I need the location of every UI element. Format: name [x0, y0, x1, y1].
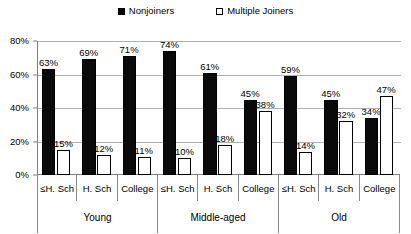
bar-value-label: 63% [39, 58, 58, 68]
category-axis-label: H. Sch [83, 183, 112, 194]
bar-value-label: 61% [200, 62, 219, 72]
hollow-square-icon [216, 8, 223, 15]
group-axis: YoungMiddle-agedOld [37, 201, 400, 233]
bar-multiple-joiners [57, 150, 71, 175]
bar-group: 69%12% [77, 41, 117, 175]
bar-group: 61%18% [198, 41, 238, 175]
bar-value-label: 45% [241, 89, 260, 99]
category-axis-cell: College [118, 175, 158, 201]
category-axis-cell: H. Sch [77, 175, 117, 201]
legend-label: Nonjoiners [129, 6, 174, 16]
bar-multiple-joiners [97, 155, 111, 175]
bar-multiple-joiners [178, 158, 192, 175]
category-axis-label: College [363, 183, 395, 194]
group-axis-label: Middle-aged [190, 212, 245, 223]
category-axis-label: ≤H. Sch [40, 183, 74, 194]
chart-legend: NonjoinersMultiple Joiners [0, 3, 411, 19]
bar-value-label: 18% [215, 134, 234, 144]
bar-group: 74%10% [158, 41, 198, 175]
bar-group: 63%15% [37, 41, 77, 175]
legend-entry: Multiple Joiners [216, 6, 293, 16]
bar-value-label: 34% [362, 107, 381, 117]
bar-group: 45%32% [319, 41, 359, 175]
bar-value-label: 14% [296, 141, 315, 151]
bar-value-label: 71% [120, 45, 139, 55]
category-axis: ≤H. SchH. SchCollege≤H. SchH. SchCollege… [37, 175, 400, 201]
bar-multiple-joiners [299, 152, 313, 175]
group-axis-cell: Young [37, 201, 158, 233]
bar-value-label: 15% [54, 139, 73, 149]
bar-nonjoiners [82, 59, 96, 175]
category-axis-label: H. Sch [325, 183, 354, 194]
bar-nonjoiners [284, 76, 298, 175]
group-axis-cell: Old [279, 201, 400, 233]
bar-multiple-joiners [218, 145, 232, 175]
category-axis-label: ≤H. Sch [161, 183, 195, 194]
bar-group: 59%14% [279, 41, 319, 175]
bars-layer: 63%15%69%12%71%11%74%10%61%18%45%38%59%1… [37, 41, 400, 175]
category-axis-cell: College [360, 175, 400, 201]
category-axis-label: College [121, 183, 153, 194]
bar-value-label: 45% [321, 89, 340, 99]
bar-nonjoiners [123, 56, 137, 175]
category-axis-label: H. Sch [204, 183, 233, 194]
group-axis-label: Young [84, 212, 112, 223]
bar-value-label: 12% [94, 144, 113, 154]
y-axis: 0%20%40%60%80% [0, 41, 33, 176]
bar-value-label: 47% [377, 85, 396, 95]
category-axis-cell: ≤H. Sch [37, 175, 77, 201]
legend-entry: Nonjoiners [118, 6, 174, 16]
group-axis-label: Old [331, 212, 347, 223]
bar-group: 71%11% [118, 41, 158, 175]
bar-value-label: 32% [336, 110, 355, 120]
bar-value-label: 38% [256, 100, 275, 110]
category-axis-cell: H. Sch [319, 175, 359, 201]
filled-square-icon [118, 8, 125, 15]
legend-label: Multiple Joiners [227, 6, 293, 16]
y-axis-tick-label: 60% [10, 70, 29, 80]
bar-multiple-joiners [138, 157, 152, 175]
bar-value-label: 74% [160, 40, 179, 50]
category-axis-cell: H. Sch [198, 175, 238, 201]
category-axis-cell: ≤H. Sch [279, 175, 319, 201]
bar-value-label: 69% [79, 48, 98, 58]
category-axis-cell: ≤H. Sch [158, 175, 198, 201]
category-axis-label: College [242, 183, 274, 194]
bar-multiple-joiners [380, 96, 394, 175]
bar-group: 45%38% [239, 41, 279, 175]
bar-nonjoiners [42, 69, 56, 175]
bar-nonjoiners [203, 73, 217, 175]
bar-multiple-joiners [259, 111, 273, 175]
y-axis-tick-label: 20% [10, 137, 29, 147]
bar-value-label: 59% [281, 65, 300, 75]
bar-value-label: 11% [135, 146, 153, 156]
bar-group: 34%47% [360, 41, 400, 175]
bar-nonjoiners [365, 118, 379, 175]
category-axis-label: ≤H. Sch [282, 183, 316, 194]
bar-value-label: 10% [175, 147, 194, 157]
y-axis-tick-label: 40% [10, 103, 29, 113]
category-axis-cell: College [239, 175, 279, 201]
bar-nonjoiners [244, 100, 258, 175]
grouped-bar-chart: NonjoinersMultiple Joiners 0%20%40%60%80… [0, 0, 411, 234]
y-axis-tick-label: 0% [15, 170, 29, 180]
y-axis-tick-label: 80% [10, 36, 29, 46]
bar-multiple-joiners [339, 121, 353, 175]
group-axis-cell: Middle-aged [158, 201, 279, 233]
